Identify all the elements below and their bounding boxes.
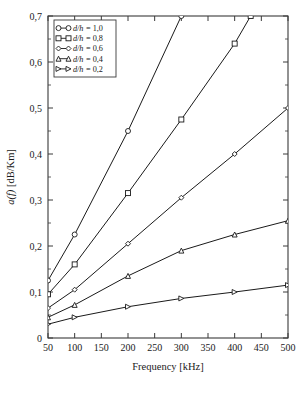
x-tick-label: 50 [43,342,53,353]
y-tick-label: 0,1 [30,287,43,298]
x-tick-label: 450 [254,342,269,353]
data-point-marker [232,232,237,237]
data-point-marker [126,129,131,134]
data-point-marker [72,315,77,320]
data-point-marker [56,26,61,31]
data-point-marker [66,26,71,31]
data-point-marker [179,117,184,122]
x-axis-label: Frequency [kHz] [132,361,203,372]
y-tick-label: 0,6 [30,57,43,68]
legend-label: d/h= 0,4 [73,55,103,64]
data-point-marker [126,304,131,309]
legend-label: d/h= 0,6 [73,44,103,53]
data-point-marker [232,41,237,46]
y-tick-label: 0,2 [30,241,43,252]
y-axis-label: a(f) [dB/Km] [5,149,17,205]
y-tick-label: 0,3 [30,195,43,206]
x-tick-label: 100 [67,342,82,353]
series-0-6 [46,106,291,311]
x-tick-label: 350 [201,342,216,353]
data-point-marker [179,296,184,301]
data-point-marker [179,14,184,19]
data-point-marker [46,315,51,320]
data-point-marker [179,248,184,253]
y-tick-label: 0,4 [30,149,43,160]
y-tick-label: 0,7 [30,11,43,22]
x-tick-label: 150 [94,342,109,353]
series-line [48,285,288,324]
x-tick-label: 400 [227,342,242,353]
data-point-marker [72,232,77,237]
series-line [48,221,288,318]
data-point-marker [126,191,131,196]
data-point-marker [72,302,77,307]
axis-labels: Frequency [kHz]a(f) [dB/Km] [5,149,204,372]
chart-legend: d/h= 1,0d/h= 0,8d/h= 0,6d/h= 0,4d/h= 0,2 [54,20,116,77]
data-point-marker [72,262,77,267]
x-tick-label: 250 [147,342,162,353]
data-point-marker [286,218,291,223]
legend-label: d/h= 1,0 [73,24,103,33]
legend-label: d/h= 0,2 [73,65,103,74]
figure-container: 50100150200250300350400450500 00,10,20,3… [0,0,304,396]
legend-label: d/h= 0,8 [73,34,103,43]
series-0-2 [46,283,291,327]
data-point-marker [66,36,71,41]
data-point-marker [232,290,237,295]
data-point-marker [286,283,291,288]
series-0-4 [46,218,291,320]
data-point-marker [46,292,51,297]
data-point-marker [126,273,131,278]
x-tick-label: 500 [281,342,296,353]
data-point-marker [46,278,51,283]
chart-canvas: 50100150200250300350400450500 00,10,20,3… [0,0,304,396]
x-tick-label: 300 [174,342,189,353]
y-tick-label: 0 [37,333,42,344]
data-point-marker [248,14,253,19]
y-tick-label: 0,5 [30,103,43,114]
x-tick-label: 200 [121,342,136,353]
data-point-marker [46,322,51,327]
data-point-marker [56,36,61,41]
